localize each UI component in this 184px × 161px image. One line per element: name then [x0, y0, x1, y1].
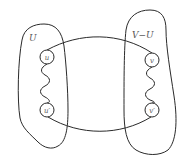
wavy-path-u-uprime: [41, 64, 50, 103]
node-vprime-label: v′: [149, 107, 155, 115]
edge-uprime-vprime: [48, 117, 151, 131]
node-uprime-label: u′: [44, 107, 51, 115]
set-u-outline: [18, 24, 68, 148]
wavy-path-v-vprime: [146, 67, 155, 103]
graph-cut-diagram: U V−U u u′ v v′: [0, 0, 184, 161]
set-v-minus-u-label: V−U: [132, 30, 154, 40]
set-u-label: U: [29, 33, 37, 43]
node-u-label: u: [45, 54, 50, 62]
node-v-label: v: [150, 57, 154, 65]
